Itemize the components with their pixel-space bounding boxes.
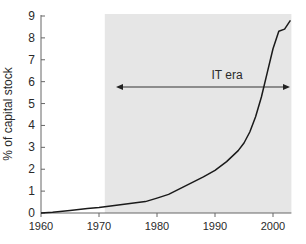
y-tick-label: 8 [28, 31, 35, 45]
y-tick-label: 7 [28, 53, 35, 67]
y-tick-label: 4 [28, 118, 35, 132]
it-era-shaded-region [105, 14, 292, 213]
line-chart: 012345678919601970198019902000 % of capi… [0, 0, 306, 244]
y-tick-label: 0 [28, 206, 35, 220]
y-tick-label: 9 [28, 9, 35, 23]
y-tick-label: 3 [28, 140, 35, 154]
x-tick-label: 1990 [203, 220, 227, 232]
y-tick-label: 1 [28, 184, 35, 198]
x-tick-label: 1970 [87, 220, 111, 232]
y-tick-label: 5 [28, 97, 35, 111]
it-era-label: IT era [211, 68, 242, 82]
y-tick-label: 6 [28, 75, 35, 89]
x-tick-label: 2000 [261, 220, 285, 232]
y-axis-label: % of capital stock [1, 66, 15, 160]
x-tick-label: 1980 [145, 220, 169, 232]
x-tick-label: 1960 [29, 220, 53, 232]
y-tick-label: 2 [28, 162, 35, 176]
